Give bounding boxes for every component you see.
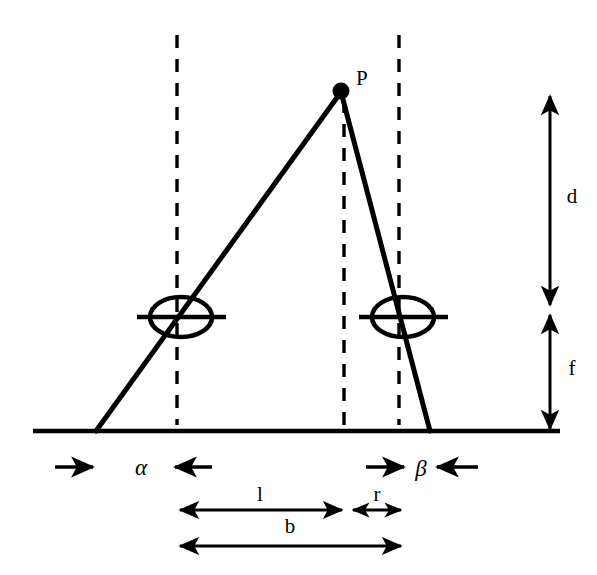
measure-l-group: l xyxy=(180,482,342,510)
apex-point-label: P xyxy=(356,66,368,90)
measure-d-label: d xyxy=(567,184,578,208)
sight-rays-group xyxy=(96,92,430,431)
measure-r-group: r xyxy=(353,482,401,510)
measure-f-label: f xyxy=(569,356,576,380)
left-lens xyxy=(137,297,226,337)
angle-beta-label: β xyxy=(414,456,427,481)
apex-point-marker xyxy=(333,83,350,100)
dashed-axes-group xyxy=(177,35,399,425)
left-sight-ray xyxy=(96,92,341,431)
vertical-measure-group: d f xyxy=(550,96,578,429)
angle-alpha-group: α xyxy=(55,455,212,480)
triangulation-diagram: P d f α β l r b xyxy=(0,0,597,575)
right-sight-ray xyxy=(341,92,430,431)
measure-b-group: b xyxy=(180,514,401,546)
angle-beta-group: β xyxy=(366,456,478,481)
measure-l-label: l xyxy=(257,482,263,506)
measure-r-label: r xyxy=(374,482,381,506)
diagram-canvas: P d f α β l r b xyxy=(0,0,597,575)
measure-b-label: b xyxy=(285,514,296,538)
angle-alpha-label: α xyxy=(135,455,148,480)
